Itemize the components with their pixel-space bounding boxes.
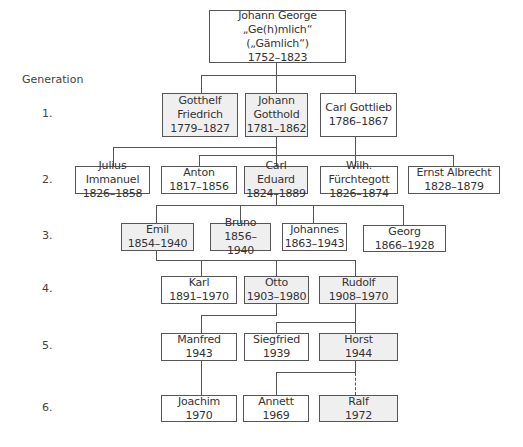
connector (113, 147, 277, 148)
dates: 1866–1928 (375, 239, 435, 253)
name-line: Carl Eduard (245, 159, 307, 187)
connector (403, 205, 404, 225)
generation-label-5: 5. (42, 339, 53, 352)
person-manfred: Manfred 1943 (161, 333, 237, 361)
name-line: Johann (258, 94, 294, 108)
person-karl: Karl 1891–1970 (161, 276, 237, 304)
dates: 1903–1980 (247, 290, 307, 304)
name-line: Johann George „Ge(h)mlich“ (210, 9, 345, 37)
name-line: Carl Gottlieb (325, 101, 392, 115)
dates: 1854–1940 (128, 237, 188, 251)
generation-label-4: 4. (42, 282, 53, 295)
dates: 1779–1827 (170, 122, 230, 136)
connector (156, 260, 356, 261)
dates: 1826–1858 (83, 187, 143, 201)
name-line: Horst (344, 333, 373, 347)
connector (156, 250, 157, 260)
connector (276, 372, 356, 373)
person-root-johann-george: Johann George „Ge(h)mlich“ („Gämlich“) 1… (209, 10, 346, 63)
name-line: Gotthelf (179, 94, 222, 108)
generation-heading: Generation (22, 73, 83, 86)
connector (355, 360, 356, 372)
name-line: Gotthold (253, 108, 299, 122)
person-siegfried: Siegfried 1939 (244, 333, 309, 361)
person-annett: Annett 1969 (243, 395, 309, 422)
name-line: Emil (146, 223, 169, 237)
dates: 1781–1862 (247, 122, 307, 136)
name-line: Friedrich (177, 108, 223, 122)
person-otto: Otto 1903–1980 (244, 276, 309, 304)
dates: 1817–1856 (169, 180, 229, 194)
connector (156, 205, 157, 223)
name-line: Annett (258, 395, 294, 409)
connector (201, 315, 277, 316)
connector (355, 260, 356, 276)
connector (276, 75, 277, 93)
dates: 1828–1879 (424, 180, 484, 194)
person-carl-gottlieb: Carl Gottlieb 1786–1867 (320, 93, 397, 137)
dates: 1891–1970 (169, 290, 229, 304)
name-line: Karl (189, 276, 210, 290)
name-line: Anton (183, 166, 215, 180)
dashed-connector (355, 373, 356, 395)
name-line: Bruno (225, 216, 257, 230)
connector (276, 303, 277, 315)
dates: 1908–1970 (329, 290, 389, 304)
person-emil: Emil 1854–1940 (121, 223, 194, 251)
name-line: Johannes (290, 223, 339, 237)
person-carl-eduard: Carl Eduard 1824–1889 (244, 166, 308, 194)
dates: 1826–1874 (329, 187, 389, 201)
connector (355, 303, 356, 333)
person-ernst-albrecht: Ernst Albrecht 1828–1879 (408, 166, 500, 194)
name-line: Rudolf (342, 276, 376, 290)
dates: 1944 (345, 347, 372, 361)
name-line: Manfred (177, 333, 221, 347)
person-gotthelf-friedrich: Gotthelf Friedrich 1779–1827 (162, 93, 238, 137)
name-line: Joachim (178, 395, 220, 409)
connector (199, 155, 454, 156)
person-rudolf: Rudolf 1908–1970 (319, 276, 398, 304)
generation-label-2: 2. (42, 173, 53, 186)
dates: 1824–1889 (246, 187, 306, 201)
dates: 1943 (185, 347, 212, 361)
dates: 1970 (185, 409, 212, 423)
person-johannes: Johannes 1863–1943 (282, 223, 347, 251)
person-bruno: Bruno 1856–1940 (210, 223, 271, 251)
name-line: Julius Immanuel (76, 159, 149, 187)
name-line: Otto (265, 276, 288, 290)
dates: 1939 (263, 347, 290, 361)
person-johann-gotthold: Johann Gotthold 1781–1862 (245, 93, 308, 137)
generation-label-3: 3. (42, 229, 53, 242)
connector (313, 205, 314, 223)
dates: 1856–1940 (211, 230, 270, 258)
dates: 1863–1943 (285, 237, 345, 251)
dates: 1752–1823 (248, 51, 308, 65)
person-anton: Anton 1817–1856 (161, 166, 237, 194)
dates: 1972 (345, 409, 372, 423)
connector (201, 360, 202, 395)
connector (276, 372, 277, 395)
connector (201, 315, 202, 333)
generation-label-6: 6. (42, 401, 53, 414)
connector (201, 75, 202, 93)
person-georg: Georg 1866–1928 (363, 225, 446, 252)
person-wilh-fuerchtegott: Wilh. Fürchtegott 1826–1874 (320, 166, 398, 194)
person-julius-immanuel: Julius Immanuel 1826–1858 (75, 166, 150, 194)
person-horst: Horst 1944 (319, 333, 398, 361)
name-line: Ernst Albrecht (417, 166, 492, 180)
connector (156, 205, 404, 206)
dates: 1786–1867 (329, 115, 389, 129)
generation-label-1: 1. (42, 107, 53, 120)
person-joachim: Joachim 1970 (161, 395, 237, 422)
dates: 1969 (262, 409, 289, 423)
person-ralf: Ralf 1972 (319, 395, 398, 422)
connector (201, 75, 356, 76)
name-line: Ralf (348, 395, 368, 409)
connector (276, 63, 277, 75)
name-line: Georg (388, 225, 420, 239)
name-line: Wilh. Fürchtegott (321, 159, 397, 187)
connector (355, 75, 356, 93)
connector (276, 322, 356, 323)
name-line: („Gämlich“) (246, 37, 309, 51)
name-line: Siegfried (253, 333, 300, 347)
